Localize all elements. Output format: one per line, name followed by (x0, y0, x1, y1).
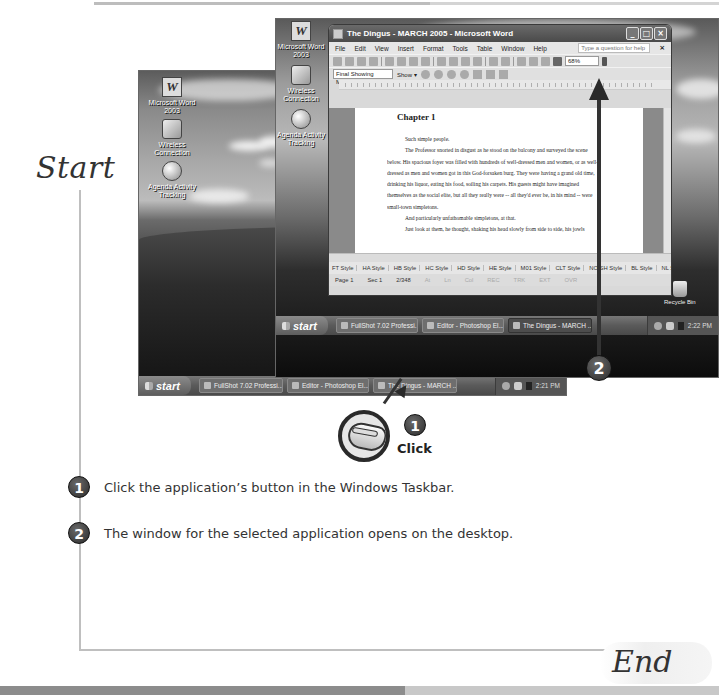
taskbar-button-photoshop[interactable]: Editor - Photoshop El... (422, 318, 504, 333)
style-button[interactable]: CLT Style (555, 265, 584, 271)
show-button[interactable]: Show ▾ (397, 71, 417, 78)
step-1: 1 Click the application’s button in the … (68, 476, 455, 498)
taskbar-button-fullshot[interactable]: FullShot 7.02 Professi... (199, 378, 283, 393)
taskbar-button-word[interactable]: The Dingus - MARCH ... (373, 378, 457, 393)
photoshop-icon (427, 322, 434, 329)
start-button[interactable]: start (276, 316, 328, 335)
maximize-button[interactable]: □ (640, 27, 653, 40)
menu-insert[interactable]: Insert (398, 45, 414, 52)
format-painter-icon[interactable] (473, 57, 482, 66)
toolbar-options-icon[interactable] (602, 57, 607, 66)
insert-comment-icon[interactable] (473, 70, 482, 79)
status-ext[interactable]: EXT (539, 277, 550, 283)
tray-volume-icon[interactable] (678, 322, 684, 330)
reject-change-icon[interactable] (460, 70, 469, 79)
taskbar-button-photoshop[interactable]: Editor - Photoshop El... (287, 378, 369, 393)
start-label: Start (36, 150, 115, 185)
permission-icon[interactable] (369, 57, 378, 66)
undo-icon[interactable] (489, 57, 498, 66)
new-icon[interactable] (333, 57, 342, 66)
tables-icon[interactable] (529, 57, 538, 66)
status-trk[interactable]: TRK (514, 277, 526, 283)
step-badge-1: 1 (404, 414, 426, 436)
taskbar-button-word[interactable]: The Dingus - MARCH ... (508, 318, 592, 333)
style-button[interactable]: NO SH Style (589, 265, 626, 271)
show-hide-icon[interactable] (553, 57, 562, 66)
style-button[interactable]: HB Style (394, 265, 421, 271)
title-bar[interactable]: The Dingus - MARCH 2005 - Microsoft Word… (329, 25, 671, 42)
accept-change-icon[interactable] (447, 70, 456, 79)
paragraph: small-town simpletons. (387, 202, 629, 213)
horizontal-scrollbar[interactable] (329, 253, 672, 262)
menu-tools[interactable]: Tools (453, 45, 468, 52)
spelling-icon[interactable] (409, 57, 418, 66)
globe-icon: o (291, 109, 311, 129)
word-window: The Dingus - MARCH 2005 - Microsoft Word… (328, 24, 672, 296)
top-rule (94, 2, 431, 5)
tray-ati-icon[interactable] (514, 382, 522, 390)
tray-network-icon[interactable] (502, 382, 510, 390)
copy-icon[interactable] (449, 57, 458, 66)
tray-volume-icon[interactable] (526, 382, 532, 390)
hyperlink-icon[interactable] (517, 57, 526, 66)
tray-ati-icon[interactable] (666, 322, 674, 330)
menu-view[interactable]: View (375, 45, 389, 52)
desktop-icon-agenda[interactable]: o Agenda Activity Tracking (275, 109, 332, 147)
next-change-icon[interactable] (434, 70, 443, 79)
menu-help[interactable]: Help (533, 45, 546, 52)
paste-icon[interactable] (461, 57, 470, 66)
menu-window[interactable]: Window (501, 45, 524, 52)
menu-edit[interactable]: Edit (354, 45, 365, 52)
zoom-select[interactable]: 68% (565, 56, 599, 66)
tray-network-icon[interactable] (654, 322, 662, 330)
desktop-icon-wireless[interactable]: n Wireless Connection (141, 119, 203, 157)
menu-table[interactable]: Table (477, 45, 493, 52)
desktop-icon-word[interactable]: W Microsoft Word 2003 (275, 21, 332, 59)
menu-file[interactable]: File (335, 45, 345, 52)
style-button[interactable]: HD Style (457, 265, 484, 271)
paragraph: below. His spacious foyer was filled wit… (387, 157, 629, 168)
print-preview-icon[interactable] (397, 57, 406, 66)
desktop-icon-wireless[interactable]: n Wireless Connection (275, 65, 332, 103)
start-button[interactable]: start (139, 376, 191, 395)
style-button[interactable]: HC Style (425, 265, 452, 271)
save-icon[interactable] (357, 57, 366, 66)
desktop-icon-agenda[interactable]: o Agenda Activity Tracking (141, 161, 203, 199)
help-search-input[interactable]: Type a question for help (578, 43, 650, 53)
globe-icon: o (162, 161, 182, 181)
redo-icon[interactable] (501, 57, 510, 66)
track-changes-icon[interactable] (486, 70, 495, 79)
menu-bar: File Edit View Insert Format Tools Table… (329, 42, 671, 54)
style-button[interactable]: HE Style (489, 265, 516, 271)
markup-mode-select[interactable]: Final Showing Markup (333, 69, 393, 79)
desktop-icon-word[interactable]: W Microsoft Word 2003 (141, 77, 203, 115)
reviewing-pane-icon[interactable] (499, 70, 508, 79)
style-button[interactable]: HA Style (362, 265, 388, 271)
print-icon[interactable] (385, 57, 394, 66)
menu-format[interactable]: Format (423, 45, 444, 52)
style-button[interactable]: BL Style (631, 265, 656, 271)
style-toolbar: FT Style HA Style HB Style HC Style HD S… (329, 262, 672, 274)
research-icon[interactable] (421, 57, 430, 66)
status-ovr[interactable]: OVR (565, 277, 578, 283)
close-document-icon[interactable]: × (659, 44, 665, 52)
style-button[interactable]: FT Style (332, 265, 357, 271)
step-1-text: Click the application’s button in the Wi… (104, 480, 455, 495)
cut-icon[interactable] (437, 57, 446, 66)
minimize-button[interactable]: _ (626, 27, 639, 40)
word-doc-icon (513, 322, 520, 329)
open-icon[interactable] (345, 57, 354, 66)
recycle-bin[interactable]: Recycle Bin (664, 281, 696, 305)
horizontal-ruler[interactable] (339, 80, 671, 90)
vertical-scrollbar[interactable] (663, 108, 672, 253)
arrow-head-icon (589, 78, 609, 100)
previous-change-icon[interactable] (421, 70, 430, 79)
status-rec[interactable]: REC (487, 277, 499, 283)
taskbar-button-fullshot[interactable]: FullShot 7.02 Professi... (336, 318, 418, 333)
style-button[interactable]: NL Style (662, 265, 672, 271)
word-app-icon (333, 29, 343, 39)
style-button[interactable]: M01 Style (521, 265, 551, 271)
close-button[interactable]: × (654, 27, 667, 40)
status-column: Col (465, 277, 474, 283)
columns-icon[interactable] (541, 57, 550, 66)
